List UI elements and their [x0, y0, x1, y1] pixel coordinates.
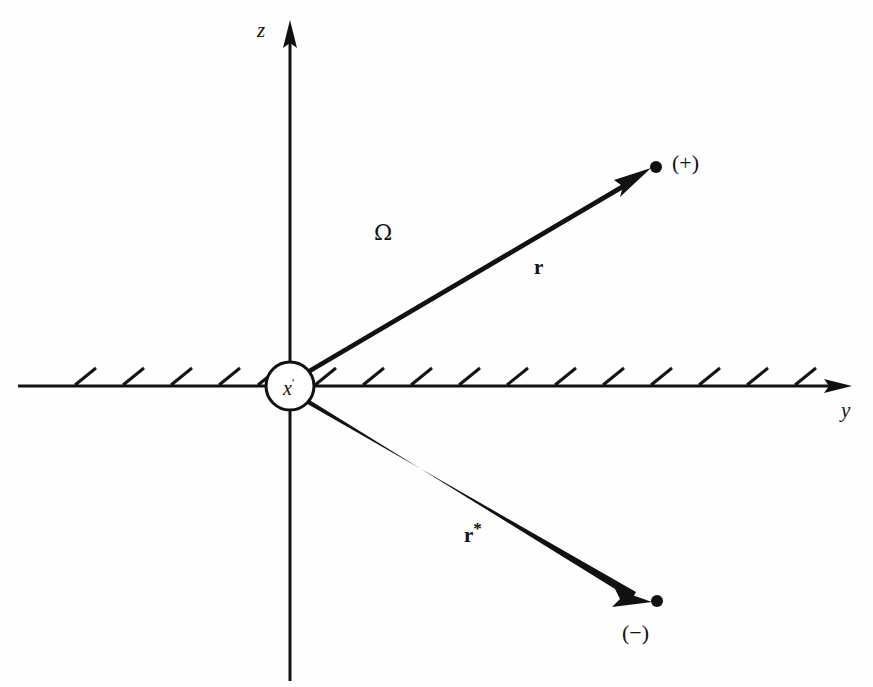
vector-r-star-label: r*	[464, 520, 482, 546]
vector-r-letter: r	[534, 255, 543, 279]
origin-point-label: x'	[283, 377, 294, 398]
z-axis-label: z	[257, 20, 265, 41]
z-axis	[283, 20, 297, 681]
y-axis-label: y	[841, 400, 850, 421]
vector-r	[303, 161, 662, 378]
figure-canvas: z y x' Ω r r* (+) (−)	[0, 0, 873, 687]
endpoint-label-negative: (−)	[622, 622, 649, 644]
half-space-image-source-diagram	[0, 0, 873, 687]
origin-label-letter: x	[283, 377, 292, 399]
solid-angle-label: Ω	[374, 222, 392, 244]
origin-label-prime: '	[292, 376, 294, 390]
vector-r-star-asterisk: *	[473, 519, 482, 538]
vector-r-star	[303, 396, 663, 607]
vector-r-star-letter: r	[464, 523, 473, 547]
y-axis	[18, 379, 852, 393]
vector-r-label: r	[534, 252, 543, 278]
endpoint-label-positive: (+)	[672, 152, 699, 174]
boundary-hatching	[75, 368, 816, 385]
